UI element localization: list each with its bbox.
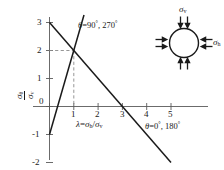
x-tick-2: 2 xyxy=(95,110,100,119)
y-tick-3: 3 xyxy=(37,18,42,27)
degree-icon: ° xyxy=(115,20,117,26)
inset-sigma-v-sub: v xyxy=(183,8,186,14)
y-tick-2: 2 xyxy=(37,46,42,55)
degree-icon: ° xyxy=(178,121,180,127)
curve-label-theta-0-180: θ=0°, 180° xyxy=(145,121,180,130)
curve-label-angle-b: 180 xyxy=(165,121,178,131)
sigma-v-bottom-arrows xyxy=(178,58,189,69)
series-line-theta-0-180 xyxy=(50,23,172,163)
inset-label-sigma-v: σv xyxy=(179,5,186,14)
inset-label-sigma-h: σh xyxy=(213,38,220,47)
y-tick-1: 1 xyxy=(37,74,42,83)
inset-loading-diagram xyxy=(156,17,213,70)
sigma-v-top-arrows xyxy=(178,17,189,28)
y-axis-label-numerator: σ xyxy=(14,94,24,98)
sigma-h-left-arrows xyxy=(156,37,167,48)
curve-label-angle-b: 270 xyxy=(102,20,115,30)
y-axis-label-numerator-sub: θ xyxy=(18,92,24,95)
y-axis-label-denominator: σ xyxy=(25,95,35,99)
inset-sigma-h-sub: h xyxy=(217,41,220,47)
x-axis-label-sub-v: v xyxy=(99,123,102,129)
x-tick-4: 4 xyxy=(144,110,149,119)
y-tick-neg1: -1 xyxy=(32,130,40,139)
y-axis-label-denominator-sub: v xyxy=(29,92,35,95)
x-tick-3: 3 xyxy=(120,110,125,119)
x-tick-1: 1 xyxy=(71,110,76,119)
series-line-theta-90-270 xyxy=(50,15,85,135)
y-tick-0: 0 xyxy=(39,97,44,106)
x-axis-label: λ=σh/σv xyxy=(76,120,102,129)
opening-circle xyxy=(170,29,199,58)
x-tick-5: 5 xyxy=(168,110,173,119)
curve-label-theta-90-270: θ=90°, 270° xyxy=(78,20,117,29)
y-axis-label: σθ σv xyxy=(14,91,35,100)
curve-label-comma: , xyxy=(98,20,100,30)
curve-label-comma: , xyxy=(161,121,163,131)
y-tick-neg2: -2 xyxy=(32,158,40,167)
sigma-h-right-arrows xyxy=(201,37,212,48)
